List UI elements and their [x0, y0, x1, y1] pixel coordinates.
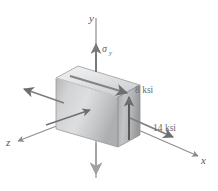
stress-element-figure: y x z σ y 8 ksi 14 ksi — [0, 0, 218, 191]
stress-block — [56, 66, 140, 147]
sigma-y-label: σ — [102, 43, 108, 54]
normal-14ksi-label: 14 ksi — [153, 123, 176, 133]
sigma-y-subscript: y — [108, 49, 113, 57]
z-axis-label: z — [5, 136, 11, 148]
y-axis-label: y — [88, 12, 94, 24]
x-axis-label: x — [200, 154, 206, 166]
shear-8ksi-label: 8 ksi — [135, 85, 154, 95]
figure-canvas: y x z σ y 8 ksi 14 ksi — [0, 0, 218, 191]
